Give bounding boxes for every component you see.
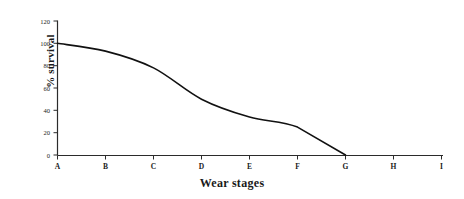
x-tick-label-f: F	[295, 162, 300, 171]
y-tick-label: 100	[40, 40, 50, 47]
x-axis-tick-labels: A B C D E F G H I	[55, 162, 443, 171]
y-tick-label: 0	[47, 152, 50, 159]
y-tick-label: 40	[44, 107, 51, 114]
y-axis-tick-labels: 120 100 80 60 40 20 0	[40, 18, 50, 159]
x-tick-label-e: E	[247, 162, 252, 171]
x-tick-label-b: B	[103, 162, 108, 171]
x-tick-label-a: A	[55, 162, 61, 171]
y-tick-label: 20	[44, 129, 51, 136]
x-tick-label-d: D	[199, 162, 205, 171]
x-tick-label-i: I	[440, 162, 443, 171]
y-tick-label: 120	[40, 18, 50, 25]
survival-data-curve	[58, 43, 346, 155]
y-tick-label: 80	[44, 62, 51, 69]
x-axis-ticks	[58, 156, 442, 160]
x-tick-label-h: H	[391, 162, 397, 171]
y-tick-label: 60	[44, 85, 51, 92]
x-axis-label: Wear stages	[0, 176, 464, 191]
survival-curve-figure: % survival 120 100 80 60 40 20 0	[0, 0, 464, 199]
x-tick-label-c: C	[151, 162, 156, 171]
x-tick-label-g: G	[343, 162, 349, 171]
chart-plot-area: 120 100 80 60 40 20 0 A B C D E F	[0, 0, 464, 199]
